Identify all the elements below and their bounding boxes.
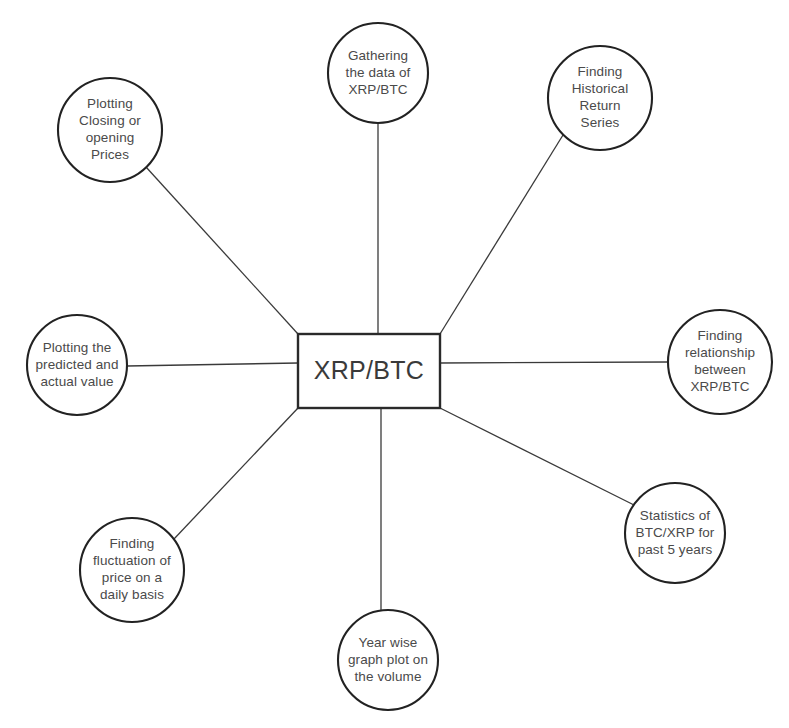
node-label-gathering-data-line-3: XRP/BTC (348, 82, 407, 97)
node-label-year-wise-graph-volume-line-2: graph plot on (348, 652, 428, 667)
diagram-canvas: Gatheringthe data ofXRP/BTCFindingHistor… (0, 0, 789, 728)
node-label-historical-return-series-line-3: Return (579, 98, 620, 113)
node-label-statistics-past-5-years-line-1: Statistics of (640, 508, 710, 523)
node-plotting-predicted-actual[interactable]: Plotting thepredicted andactual value (27, 315, 127, 415)
node-label-finding-relationship-line-1: Finding (698, 328, 743, 343)
connector-historical-return-series (440, 135, 563, 334)
node-label-historical-return-series-line-1: Finding (578, 64, 623, 79)
node-finding-fluctuation-daily[interactable]: Findingfluctuation ofprice on adaily bas… (80, 518, 184, 622)
node-label-statistics-past-5-years-line-3: past 5 years (638, 542, 713, 557)
node-label-finding-fluctuation-daily-line-4: daily basis (100, 587, 164, 602)
node-label-historical-return-series-line-4: Series (581, 115, 620, 130)
node-label-plotting-closing-opening-prices-line-4: Prices (91, 147, 129, 162)
node-label-statistics-past-5-years-line-2: BTC/XRP for (636, 525, 715, 540)
node-label-gathering-data-line-2: the data of (346, 65, 411, 80)
connector-plotting-predicted-actual (127, 363, 298, 366)
node-gathering-data[interactable]: Gatheringthe data ofXRP/BTC (328, 23, 428, 123)
connector-plotting-closing-opening-prices (146, 167, 298, 334)
node-label-finding-fluctuation-daily-line-3: price on a (102, 570, 163, 585)
node-year-wise-graph-volume[interactable]: Year wisegraph plot onthe volume (338, 610, 438, 710)
node-label-finding-fluctuation-daily-line-2: fluctuation of (93, 553, 171, 568)
node-plotting-closing-opening-prices[interactable]: PlottingClosing oropeningPrices (58, 78, 162, 182)
hub-label: XRP/BTC (314, 356, 424, 384)
node-statistics-past-5-years[interactable]: Statistics ofBTC/XRP forpast 5 years (625, 483, 725, 583)
hub-and-spoke-diagram: Gatheringthe data ofXRP/BTCFindingHistor… (0, 0, 789, 728)
node-label-plotting-closing-opening-prices-line-3: opening (86, 130, 135, 145)
node-label-finding-fluctuation-daily-line-1: Finding (110, 536, 155, 551)
node-label-plotting-predicted-actual-line-2: predicted and (35, 357, 118, 372)
connector-finding-fluctuation-daily (174, 408, 298, 539)
node-label-gathering-data-line-1: Gathering (348, 48, 408, 63)
node-label-plotting-closing-opening-prices-line-2: Closing or (79, 113, 141, 128)
connector-finding-relationship (440, 362, 668, 363)
node-label-year-wise-graph-volume-line-3: the volume (354, 669, 421, 684)
node-finding-relationship[interactable]: FindingrelationshipbetweenXRP/BTC (668, 310, 772, 414)
node-label-plotting-closing-opening-prices-line-1: Plotting (87, 96, 133, 111)
node-label-finding-relationship-line-3: between (694, 362, 746, 377)
node-label-finding-relationship-line-2: relationship (685, 345, 755, 360)
node-historical-return-series[interactable]: FindingHistoricalReturnSeries (548, 46, 652, 150)
node-label-finding-relationship-line-4: XRP/BTC (690, 379, 749, 394)
connector-statistics-past-5-years (440, 408, 634, 505)
node-label-plotting-predicted-actual-line-1: Plotting the (43, 340, 112, 355)
node-label-plotting-predicted-actual-line-3: actual value (40, 374, 113, 389)
hub-node-group: XRP/BTC (298, 334, 440, 408)
node-label-year-wise-graph-volume-line-1: Year wise (359, 635, 418, 650)
node-label-historical-return-series-line-2: Historical (572, 81, 629, 96)
